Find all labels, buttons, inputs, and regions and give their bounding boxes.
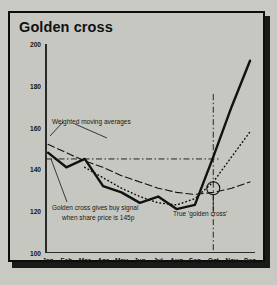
annotation-golden-cross-line1: Golden cross gives buy signal — [52, 204, 138, 211]
x-axis-tick-jan: Jan — [42, 257, 53, 264]
y-axis-tick-100: 100 — [30, 250, 41, 257]
x-axis-tick-aug: Aug — [170, 257, 183, 264]
chart-figure: Golden cross 100120140160180200JanFebMar… — [0, 0, 277, 285]
page-title: Golden cross — [19, 19, 113, 35]
annotation-true-golden-cross: True 'golden cross' — [173, 209, 227, 219]
x-axis-tick-mar: Mar — [79, 257, 91, 264]
annotation-golden-cross-line2: when share price is 145p — [52, 213, 138, 223]
chart-card: Golden cross 100120140160180200JanFebMar… — [8, 11, 265, 262]
chart-card-inner: Golden cross 100120140160180200JanFebMar… — [10, 13, 263, 260]
y-axis-tick-120: 120 — [30, 208, 41, 215]
annotation-weighted-moving-averages: Weighted moving averages — [52, 117, 131, 127]
y-axis-tick-160: 160 — [30, 124, 41, 131]
series-short-weighted-moving-average — [85, 132, 250, 205]
y-axis-tick-180: 180 — [30, 82, 41, 89]
x-axis-tick-may: May — [115, 257, 128, 264]
annotation-golden-cross-buy-signal: Golden cross gives buy signal when share… — [52, 203, 138, 223]
x-axis-tick-jun: Jun — [134, 257, 146, 264]
x-axis-tick-dec: Dec — [244, 257, 256, 264]
y-axis-tick-200: 200 — [30, 41, 41, 48]
x-axis-tick-feb: Feb — [60, 257, 72, 264]
y-axis-tick-140: 140 — [30, 166, 41, 173]
x-axis-tick-jul: Jul — [153, 257, 163, 264]
x-axis-tick-sep: Sep — [189, 257, 201, 264]
x-axis-tick-apr: Apr — [97, 257, 108, 264]
x-axis-tick-nov: Nov — [225, 257, 237, 264]
x-axis-tick-oct: Oct — [208, 257, 219, 264]
